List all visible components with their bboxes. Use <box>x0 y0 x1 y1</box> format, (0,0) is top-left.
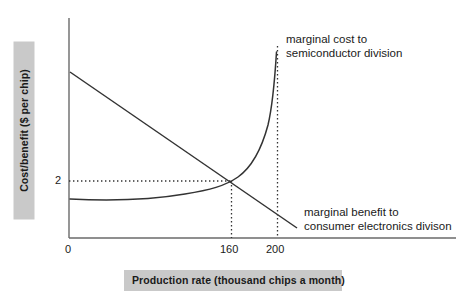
chart-figure: Cost/benefit ($ per chip) Production rat… <box>0 0 472 300</box>
y-tick-label-2: 2 <box>55 174 61 186</box>
x-tick-label-0: 0 <box>65 243 71 255</box>
marginal-cost-annotation-line-2: semiconductor division <box>286 47 402 61</box>
marginal-cost-annotation-line-1: marginal cost to <box>286 33 402 47</box>
y-axis-title: Cost/benefit ($ per chip) <box>14 42 35 220</box>
marginal-benefit-annotation-line-2: consumer electronics divison <box>304 220 452 234</box>
marginal-cost-curve <box>70 52 277 200</box>
x-axis-title: Production rate (thousand chips a month) <box>124 270 342 291</box>
marginal-benefit-annotation: marginal benefit to consumer electronics… <box>304 206 452 233</box>
marginal-benefit-curve <box>70 72 297 228</box>
x-tick-label-200: 200 <box>266 243 284 255</box>
x-tick-label-160: 160 <box>220 243 238 255</box>
marginal-benefit-annotation-line-1: marginal benefit to <box>304 206 452 220</box>
marginal-cost-annotation: marginal cost to semiconductor division <box>286 33 402 60</box>
